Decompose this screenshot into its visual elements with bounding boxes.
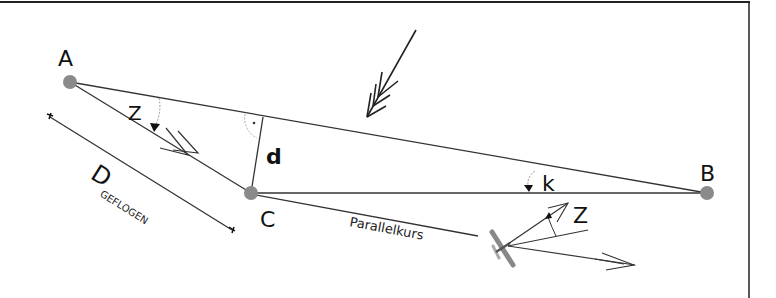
label-k-angle: k xyxy=(542,171,555,196)
angle-z-arc-plane xyxy=(548,217,556,236)
label-d-flown-subscript: GEFLOGEN xyxy=(98,188,150,226)
label-d-flown: D xyxy=(86,159,117,193)
angle-k-arrowhead xyxy=(524,185,533,192)
point-a xyxy=(63,75,77,89)
label-d-distance: d xyxy=(266,144,282,169)
label-c: C xyxy=(260,207,275,232)
heading-arrowhead xyxy=(548,203,568,222)
heading-vector xyxy=(508,203,568,244)
label-a: A xyxy=(58,46,73,71)
navigation-diagram: A B C Z d k Z D GEFLOGEN Parallelkurs xyxy=(0,0,776,298)
line-d-perpendicular xyxy=(251,117,263,193)
wind-arrow-icon xyxy=(367,30,416,117)
point-b xyxy=(700,186,714,200)
airplane-icon xyxy=(492,232,513,265)
track-arrow-icon xyxy=(160,128,198,155)
line-a-b xyxy=(70,82,707,193)
label-z-angle-plane: Z xyxy=(573,203,588,228)
label-z-angle-a: Z xyxy=(128,101,142,125)
course-reference-line xyxy=(508,230,588,246)
right-angle-dot xyxy=(253,122,256,125)
point-c xyxy=(244,186,258,200)
right-angle-marker-icon xyxy=(245,114,257,138)
label-b: B xyxy=(700,161,715,186)
angle-z-arrowhead xyxy=(150,123,160,132)
angle-z-arc-a xyxy=(155,98,160,127)
angle-z-plane-arrowhead xyxy=(545,212,552,219)
